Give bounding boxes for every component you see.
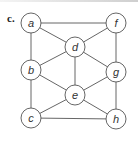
node-h: h (106, 109, 126, 129)
node-c: c (21, 108, 41, 128)
graph-nodes: afdbgech (21, 13, 126, 129)
node-d: d (65, 37, 85, 57)
node-label: h (113, 113, 119, 125)
node-label: g (113, 66, 120, 78)
graph-diagram: afdbgech (0, 0, 138, 158)
node-g: g (106, 62, 126, 82)
node-b: b (21, 60, 41, 80)
node-label: d (72, 41, 79, 53)
edge-c-h (31, 118, 116, 119)
node-label: c (28, 112, 34, 124)
node-e: e (65, 85, 85, 105)
node-label: b (28, 64, 34, 76)
node-label: e (72, 89, 78, 101)
node-a: a (21, 13, 41, 33)
node-label: a (28, 17, 34, 29)
node-f: f (106, 13, 126, 33)
